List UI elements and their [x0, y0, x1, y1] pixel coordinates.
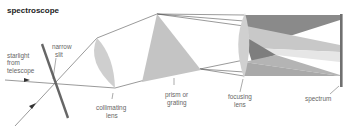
label-narrow-slit: narrow slit: [52, 43, 73, 58]
spectroscope-diagram: spectroscope: [0, 0, 350, 126]
arrow-icon: [29, 103, 36, 109]
spectrum-beams: [244, 15, 340, 76]
diagram-title: spectroscope: [7, 6, 60, 15]
label-prism: prism or grating: [165, 91, 190, 107]
prism: [142, 14, 201, 82]
label-collimating-lens: collimating lens: [96, 104, 128, 119]
spectrum-screen: [340, 14, 343, 87]
label-spectrum: spectrum: [305, 95, 331, 103]
collimating-lens: [94, 38, 115, 88]
label-starlight: starlight from telescope: [7, 52, 35, 75]
label-focusing-lens: focusing lens: [228, 93, 254, 108]
